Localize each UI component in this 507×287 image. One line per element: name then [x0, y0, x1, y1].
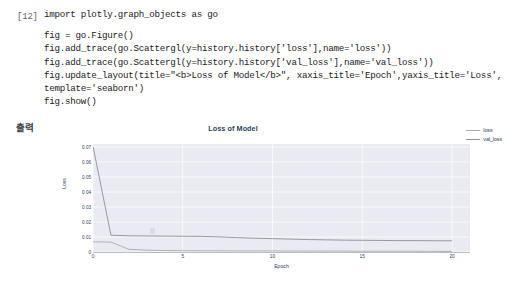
code-line: fig.add_trace(go.Scattergl(y=history.his…	[44, 42, 499, 55]
y-tick-label: 0.06	[82, 160, 91, 165]
plotly-figure[interactable]: Loss of Model loss val_loss 00.010.020.0…	[63, 123, 504, 281]
code-line: fig.update_layout(title="<b>Loss of Mode…	[44, 69, 499, 82]
chart-plot-area[interactable]	[93, 144, 470, 252]
y-tick-label: 0.02	[82, 220, 91, 225]
y-tick-label: 0.05	[82, 175, 91, 180]
y-tick-label: 0	[88, 250, 91, 255]
code-line: fig.add_trace(go.Scattergl(y=history.his…	[44, 56, 499, 69]
legend-item-loss[interactable]: loss	[466, 127, 502, 133]
x-tick-label: 20	[449, 254, 454, 259]
x-axis-title: Epoch	[93, 263, 470, 269]
y-tick-label: 0.04	[82, 190, 91, 195]
notebook-cell: [12] 출력 import plotly.graph_objects as g…	[0, 0, 507, 287]
x-tick-label: 5	[181, 254, 184, 259]
x-tick-label: 15	[360, 254, 365, 259]
code-blank-line	[44, 21, 499, 29]
code-line: import plotly.graph_objects as go	[44, 8, 499, 21]
chart-title: Loss of Model	[63, 124, 403, 133]
y-tick-label: 0.01	[82, 235, 91, 240]
cell-output-label: 출력	[16, 120, 34, 134]
render-artifact	[150, 228, 155, 234]
y-axis-title: Loss	[61, 178, 67, 189]
chart-svg	[93, 144, 470, 252]
legend-swatch-icon	[466, 139, 480, 140]
x-tick-label: 10	[270, 254, 275, 259]
x-tick-label: 0	[92, 254, 95, 259]
y-tick-label: 0.03	[82, 205, 91, 210]
legend-item-val-loss[interactable]: val_loss	[466, 136, 502, 142]
cell-execution-count[interactable]: [12]	[17, 12, 38, 22]
legend-swatch-icon	[466, 130, 480, 131]
legend-label: loss	[483, 127, 492, 133]
code-line: fig = go.Figure()	[44, 29, 499, 42]
x-axis-line	[93, 252, 470, 253]
chart-legend[interactable]: loss val_loss	[466, 127, 502, 142]
y-axis-ticks: 00.010.020.030.040.050.060.07	[63, 144, 91, 252]
y-tick-label: 0.07	[82, 145, 91, 150]
legend-label: val_loss	[483, 136, 502, 142]
code-line: fig.show()	[44, 95, 499, 108]
code-line: template='seaborn')	[44, 82, 499, 95]
code-editor[interactable]: import plotly.graph_objects as go fig = …	[44, 8, 499, 108]
